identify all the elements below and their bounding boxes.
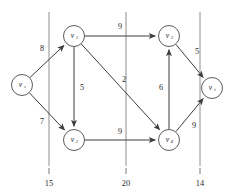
edge-weight-v4-v3: 6 bbox=[159, 83, 163, 92]
edge-v3-vt bbox=[176, 44, 203, 77]
edge-weight-v3-vt: 5 bbox=[195, 47, 199, 56]
edges-group bbox=[30, 36, 204, 140]
edge-v4-vt bbox=[176, 99, 203, 132]
edge-weight-vs-v2: 7 bbox=[40, 117, 44, 126]
edge-weight-v1-v3: 9 bbox=[118, 22, 122, 31]
edge-weight-v4-vt: 9 bbox=[192, 121, 196, 130]
edge-vs-v1 bbox=[30, 45, 64, 77]
edge-weight-v1-v4: 2 bbox=[122, 75, 126, 84]
edge-vs-v2 bbox=[30, 93, 65, 130]
cut-value-label-14: 14 bbox=[196, 179, 205, 188]
edge-v1-v4 bbox=[81, 44, 159, 130]
node-subscript-v1: 1 bbox=[76, 35, 78, 40]
cut-value-label-20: 20 bbox=[122, 179, 130, 188]
edge-weight-vs-v1: 8 bbox=[40, 44, 44, 53]
graph-diagram-canvas: vsv1v2v3v4vt 879529659 152014 bbox=[0, 0, 234, 191]
cut-value-labels-group: 152014 bbox=[45, 179, 205, 188]
edge-weight-v1-v2: 5 bbox=[80, 83, 84, 92]
cut-value-label-15: 15 bbox=[45, 179, 53, 188]
graph-svg: vsv1v2v3v4vt 879529659 152014 bbox=[0, 0, 234, 191]
node-subscript-vs: s bbox=[24, 84, 26, 89]
edge-weight-v2-v4: 9 bbox=[118, 127, 122, 136]
